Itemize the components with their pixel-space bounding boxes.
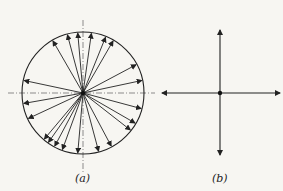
radial-vector xyxy=(83,34,91,93)
center-point xyxy=(81,91,85,95)
label-a: (a) xyxy=(75,172,90,185)
radial-vector xyxy=(24,81,83,93)
diagram-canvas xyxy=(0,0,283,191)
radial-vector xyxy=(49,93,83,142)
radial-vector xyxy=(83,37,105,93)
label-b: (b) xyxy=(212,172,228,185)
radial-vector xyxy=(83,93,99,151)
radial-vector xyxy=(53,41,83,93)
radial-vector xyxy=(83,81,142,93)
radial-vector xyxy=(24,93,83,103)
panel-b xyxy=(162,30,280,155)
panel-a xyxy=(8,20,155,172)
center-point-b xyxy=(218,91,222,95)
radial-vector xyxy=(83,93,130,130)
radial-vector xyxy=(83,93,141,109)
radial-vector xyxy=(44,93,83,139)
